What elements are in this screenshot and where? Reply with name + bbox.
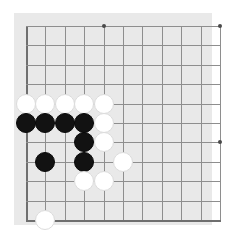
white-stone[interactable] <box>16 94 36 114</box>
go-board-app <box>0 0 225 238</box>
white-stone[interactable] <box>74 94 94 114</box>
black-stone[interactable] <box>74 152 94 172</box>
black-stone[interactable] <box>16 113 36 133</box>
star-point <box>218 140 222 144</box>
white-stone[interactable] <box>94 132 114 152</box>
white-stone[interactable] <box>35 210 55 230</box>
black-stone[interactable] <box>55 113 75 133</box>
white-stone[interactable] <box>35 94 55 114</box>
white-stone[interactable] <box>94 171 114 191</box>
white-stone[interactable] <box>94 113 114 133</box>
white-stone[interactable] <box>113 152 133 172</box>
black-stone[interactable] <box>35 152 55 172</box>
white-stone[interactable] <box>55 94 75 114</box>
white-stone[interactable] <box>74 171 94 191</box>
go-board-stones <box>14 13 212 225</box>
black-stone[interactable] <box>74 113 94 133</box>
star-point <box>218 24 222 28</box>
white-stone[interactable] <box>94 94 114 114</box>
black-stone[interactable] <box>35 113 55 133</box>
black-stone[interactable] <box>74 132 94 152</box>
go-board-surface[interactable] <box>14 13 212 225</box>
